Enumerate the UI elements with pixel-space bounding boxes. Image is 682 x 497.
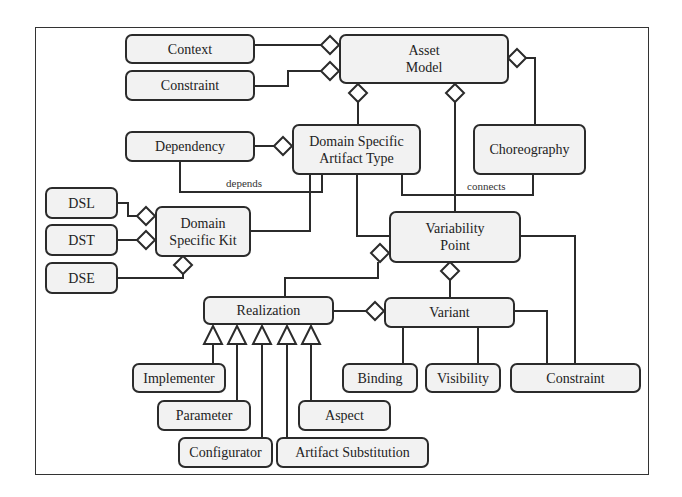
node-dependency: Dependency [125, 131, 255, 162]
node-label: DST [68, 232, 94, 249]
edge-label-connects: connects [467, 180, 505, 192]
node-binding: Binding [342, 363, 418, 393]
node-label: Aspect [325, 407, 364, 424]
node-constraint-top: Constraint [125, 70, 255, 101]
node-label: Dependency [155, 138, 225, 155]
node-label: Asset [408, 42, 439, 59]
edge-label-depends: depends [226, 177, 262, 189]
node-realization: Realization [203, 296, 334, 325]
node-variant: Variant [384, 297, 515, 328]
node-label: Specific Kit [169, 232, 236, 249]
node-choreography: Choreography [473, 124, 586, 175]
node-asset-model: AssetModel [339, 34, 509, 84]
node-label: Realization [237, 302, 301, 319]
node-label: Constraint [546, 370, 604, 387]
node-label: Artifact Type [319, 150, 394, 167]
node-dst: DST [45, 224, 118, 256]
node-label: Constraint [161, 77, 219, 94]
node-label: DSL [68, 195, 94, 212]
node-label: Binding [357, 370, 402, 387]
node-visibility: Visibility [425, 363, 501, 393]
node-label: Implementer [143, 370, 215, 387]
node-label: Model [406, 59, 443, 76]
node-dse: DSE [45, 262, 118, 294]
node-label: Variability [425, 220, 484, 237]
node-label: Context [168, 41, 212, 58]
node-label: Visibility [437, 370, 489, 387]
node-variability-point: VariabilityPoint [389, 211, 521, 263]
node-artifact-substitution: Artifact Substitution [276, 437, 429, 468]
node-domain-specific-kit: DomainSpecific Kit [155, 206, 251, 257]
node-aspect: Aspect [298, 400, 391, 431]
node-label: Parameter [176, 407, 233, 424]
node-label: Configurator [189, 444, 261, 461]
node-label: DSE [68, 270, 94, 287]
node-domain-specific-artifact-type: Domain SpecificArtifact Type [292, 124, 421, 175]
node-configurator: Configurator [178, 437, 273, 468]
node-implementer: Implementer [132, 363, 226, 393]
node-label: Point [440, 237, 470, 254]
node-context: Context [125, 34, 255, 64]
node-label: Domain [180, 215, 225, 232]
node-label: Domain Specific [309, 133, 403, 150]
node-label: Artifact Substitution [295, 444, 410, 461]
node-parameter: Parameter [157, 400, 251, 431]
node-label: Variant [429, 304, 469, 321]
node-constraint-bottom: Constraint [510, 363, 641, 393]
node-label: Choreography [489, 141, 569, 158]
node-dsl: DSL [45, 187, 118, 219]
